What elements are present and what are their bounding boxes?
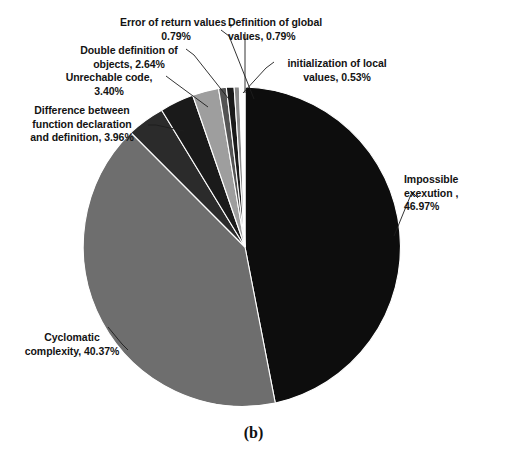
pie-label-initialization-of-local-values: initialization of local values, 0.53% (270, 57, 404, 84)
figure-caption: (b) (0, 424, 507, 442)
pie-label-impossible-exexution: Impossible exexution , 46.97% (404, 173, 506, 214)
pie-label-difference-declaration-definition: Difference between function declaration … (12, 104, 152, 145)
pie-label-cyclomatic-complexity: Cyclomatic complexity, 40.37% (14, 331, 130, 358)
pie-chart-figure: Error of return values , 0.79% Definitio… (0, 0, 507, 453)
pie-label-double-definition-objects: Double definition of objects, 2.64% (68, 44, 190, 71)
pie-label-definition-of-global-values: Definition of global values, 0.79% (228, 16, 360, 43)
pie-slice-impossible-exexution[interactable] (245, 87, 400, 403)
pie-label-unrechable-code: Unrechable code, 3.40% (48, 71, 170, 98)
